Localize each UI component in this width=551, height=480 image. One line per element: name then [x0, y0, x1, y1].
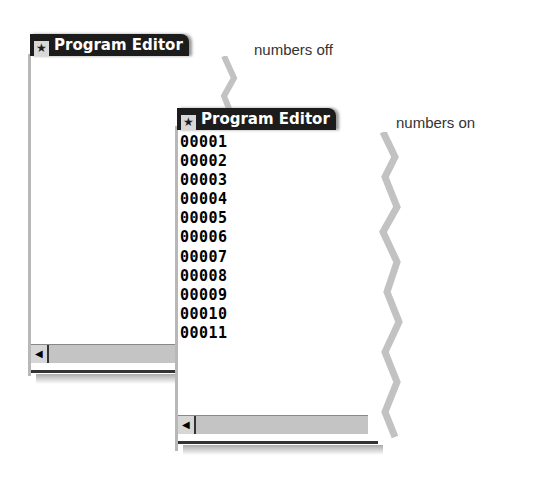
line-number: 00002 — [180, 152, 228, 171]
caption-numbers-off: numbers off — [254, 41, 333, 58]
window-frame-bottom — [178, 441, 378, 444]
window-title: Program Editor — [54, 36, 183, 54]
window-shadow — [183, 445, 383, 455]
line-number: 00009 — [180, 286, 228, 305]
line-number: 00008 — [180, 267, 228, 286]
scroll-left-arrow-icon[interactable]: ◀ — [178, 416, 196, 434]
line-number: 00004 — [180, 190, 228, 209]
horizontal-scrollbar[interactable]: ◀ — [178, 415, 368, 434]
window-title: Program Editor — [201, 110, 330, 128]
title-bar[interactable]: ★Program Editor — [177, 108, 336, 130]
caption-numbers-on: numbers on — [396, 114, 475, 131]
line-number: 00011 — [180, 324, 228, 343]
window-frame-bottom — [31, 370, 181, 373]
program-editor-icon: ★ — [181, 115, 196, 130]
scroll-left-arrow-icon[interactable]: ◀ — [31, 345, 49, 363]
line-number: 00006 — [180, 228, 228, 247]
line-numbers: 00001 00002 00003 00004 00005 00006 0000… — [180, 133, 228, 343]
torn-edge — [375, 132, 410, 442]
line-number: 00001 — [180, 133, 228, 152]
title-bar[interactable]: ★Program Editor — [30, 34, 189, 56]
window-shadow — [36, 374, 186, 384]
line-number: 00005 — [180, 209, 228, 228]
program-editor-icon: ★ — [34, 41, 49, 56]
line-number: 00010 — [180, 305, 228, 324]
horizontal-scrollbar[interactable]: ◀ — [31, 344, 181, 363]
line-number: 00007 — [180, 248, 228, 267]
program-editor-window-numbers-on: ★Program Editor 00001 00002 00003 00004 … — [175, 104, 405, 464]
line-number: 00003 — [180, 171, 228, 190]
